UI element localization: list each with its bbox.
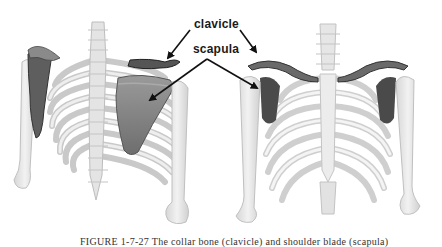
figure-caption: FIGURE 1-7-27 The collar bone (clavicle)…	[80, 236, 388, 247]
clavicle-label: clavicle	[194, 17, 239, 31]
clavicle-arrow-right	[240, 30, 256, 52]
posterior-view	[14, 22, 189, 224]
scapula-arrow-right	[207, 59, 257, 88]
clavicle-arrow-left	[168, 30, 190, 58]
scapula-label: scapula	[193, 42, 239, 56]
anterior-view	[236, 24, 420, 222]
